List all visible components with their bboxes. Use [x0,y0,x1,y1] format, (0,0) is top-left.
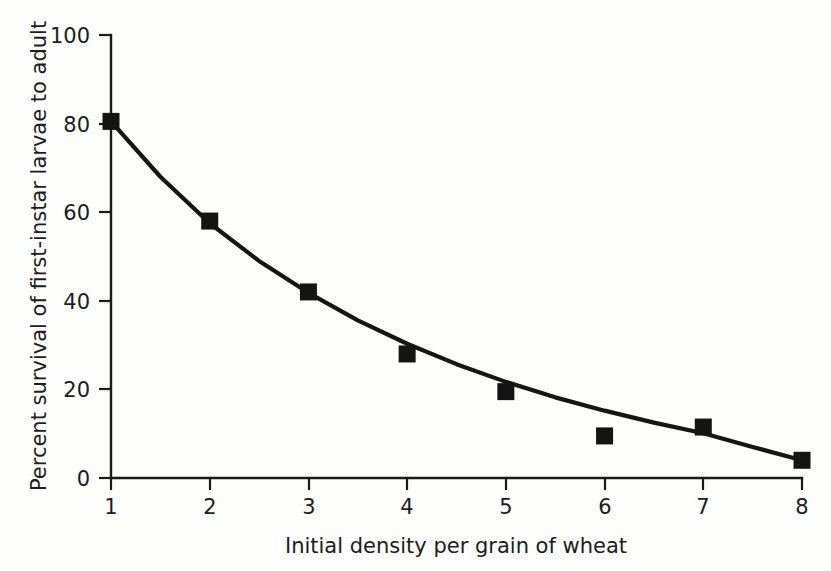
chart-figure: 0 20 40 60 80 100 1 2 3 4 5 6 7 8 Initia… [0,0,831,571]
x-tick-label-6: 6 [598,495,611,519]
x-tick-label-8: 8 [795,495,808,519]
data-point-marker [794,452,811,469]
x-tick-label-4: 4 [400,495,413,519]
data-point-marker [497,383,514,400]
x-axis-title: Initial density per grain of wheat [285,534,627,558]
y-tick-label-40: 40 [63,290,90,314]
y-axis-title: Percent survival of first-instar larvae … [27,21,51,491]
x-tick-label-5: 5 [499,495,512,519]
y-tick-label-80: 80 [63,113,90,137]
y-tick-label-20: 20 [63,378,90,402]
x-tick-label-3: 3 [302,495,315,519]
x-tick-label-1: 1 [104,495,117,519]
data-point-marker [201,213,218,230]
y-tick-label-60: 60 [63,201,90,225]
x-tick-label-2: 2 [203,495,216,519]
x-tick-label-7: 7 [696,495,709,519]
x-axis-tick-labels: 1 2 3 4 5 6 7 8 [104,495,808,519]
data-point-marker [300,283,317,300]
data-point-markers [103,113,811,469]
fitted-curve [111,121,802,460]
y-tick-label-100: 100 [50,24,90,48]
y-axis-tick-labels: 0 20 40 60 80 100 [50,24,90,491]
data-point-marker [399,345,416,362]
x-axis-ticks [111,478,802,490]
data-point-marker [695,419,712,436]
y-axis-ticks [99,35,111,478]
y-tick-label-0: 0 [77,467,90,491]
data-point-marker [596,427,613,444]
scatter-plot-svg: 0 20 40 60 80 100 1 2 3 4 5 6 7 8 Initia… [0,0,831,571]
data-point-marker [103,113,120,130]
